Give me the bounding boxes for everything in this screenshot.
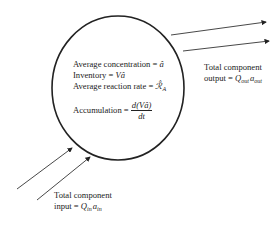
accumulation-label: Accumulation = [73, 105, 131, 115]
input-a-sub: in [97, 206, 102, 212]
accumulation-numerator: d(Vâ) [131, 100, 153, 111]
inventory-label: Inventory = [73, 70, 116, 80]
input-line2: input = Qinain [54, 201, 112, 215]
avg-concentration-label: Average concentration = [73, 59, 160, 69]
output-line2: output = Qoutaout [204, 73, 262, 87]
input-line1: Total component [54, 190, 112, 201]
avg-concentration-symbol: â [160, 59, 164, 69]
avg-reaction-rate-text: Average reaction rate = ℛ̂A [73, 81, 166, 95]
input-label: Total component input = Qinain [54, 190, 112, 215]
avg-concentration-text: Average concentration = â [73, 59, 164, 70]
avg-reaction-rate-label: Average reaction rate = [73, 81, 155, 91]
inventory-text: Inventory = Vâ [73, 70, 125, 81]
output-label: Total component output = Qoutaout [204, 62, 262, 87]
output-arrow-1 [171, 22, 266, 35]
output-q-sub: out [241, 78, 249, 84]
avg-reaction-rate-sub: A [162, 86, 166, 92]
accumulation-text: Accumulation = d(Vâ)dt [73, 100, 152, 121]
inventory-symbol: Vâ [116, 70, 126, 80]
output-arrow-2 [183, 41, 269, 51]
output-line1: Total component [204, 62, 262, 73]
output-prefix: output = [204, 73, 235, 83]
input-arrow-1 [17, 148, 72, 189]
input-prefix: input = [54, 201, 81, 211]
accumulation-denominator: dt [131, 111, 153, 121]
accumulation-fraction: d(Vâ)dt [131, 100, 153, 121]
input-q-sub: in [87, 206, 92, 212]
output-a-sub: out [254, 78, 262, 84]
